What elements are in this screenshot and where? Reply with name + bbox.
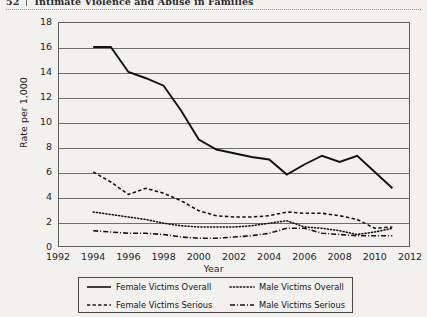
y-tick-label: 12 <box>22 92 52 101</box>
legend-label: Male Victims Overall <box>259 282 344 292</box>
header-rule <box>6 9 421 10</box>
legend-label: Female Victims Overall <box>116 282 211 292</box>
legend-item-male-victims-overall: Male Victims Overall <box>222 282 354 292</box>
x-tick-label: 2004 <box>249 251 289 262</box>
legend-label: Female Victims Serious <box>116 300 212 310</box>
x-tick-label: 1998 <box>144 251 184 262</box>
x-tick-label: 1992 <box>38 251 78 262</box>
y-tick-label: 6 <box>22 167 52 176</box>
series-line-female-victims-serious <box>93 172 392 228</box>
y-tick-label: 2 <box>22 217 52 226</box>
x-tick-label: 2000 <box>179 251 219 262</box>
x-axis-label: Year <box>0 263 427 274</box>
series-line-male-victims-overall <box>93 212 392 235</box>
legend-key-dotted-icon <box>229 282 255 292</box>
y-tick-label: 4 <box>22 192 52 201</box>
legend-item-female-victims-overall: Female Victims Overall <box>79 282 222 292</box>
y-tick-label: 10 <box>22 117 52 126</box>
legend-key-dashdot-icon <box>229 300 255 310</box>
header-divider <box>26 0 27 6</box>
legend-key-solid-icon <box>86 282 112 292</box>
x-tick-label: 2002 <box>214 251 254 262</box>
series-line-female-victims-overall <box>93 47 392 188</box>
series-line-male-victims-serious <box>93 228 392 238</box>
legend-key-dashed-icon <box>86 300 112 310</box>
y-tick-label: 14 <box>22 67 52 76</box>
x-tick-label: 2012 <box>390 251 427 262</box>
legend-item-male-victims-serious: Male Victims Serious <box>222 300 354 310</box>
legend-item-female-victims-serious: Female Victims Serious <box>79 300 222 310</box>
x-tick-label: 2006 <box>284 251 324 262</box>
x-tick-label: 1996 <box>108 251 148 262</box>
y-tick-label: 16 <box>22 42 52 51</box>
chart-lines <box>58 22 410 247</box>
page-number: 52 <box>6 0 19 7</box>
chart-legend: Female Victims Overall Male Victims Over… <box>78 277 353 313</box>
y-tick-label: 0 <box>22 242 52 251</box>
legend-label: Male Victims Serious <box>259 300 345 310</box>
running-title: Intimate Violence and Abuse in Families <box>34 0 253 7</box>
x-tick-label: 1994 <box>73 251 113 262</box>
x-tick-label: 2010 <box>355 251 395 262</box>
y-tick-label: 18 <box>22 17 52 26</box>
x-tick-label: 2008 <box>320 251 360 262</box>
chart-figure: Rate per 1,000 024681012141618 199219941… <box>0 11 427 317</box>
y-tick-label: 8 <box>22 142 52 151</box>
